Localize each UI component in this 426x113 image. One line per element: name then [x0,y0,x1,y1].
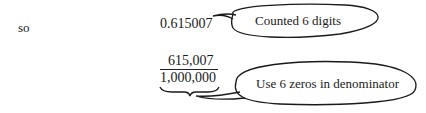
callout-2-tail [196,92,245,99]
underbrace-icon [160,87,219,96]
callout-shapes [0,0,426,113]
callout-1-text: Counted 6 digits [255,13,341,29]
callout-2-text: Use 6 zeros in denominator [256,76,399,92]
